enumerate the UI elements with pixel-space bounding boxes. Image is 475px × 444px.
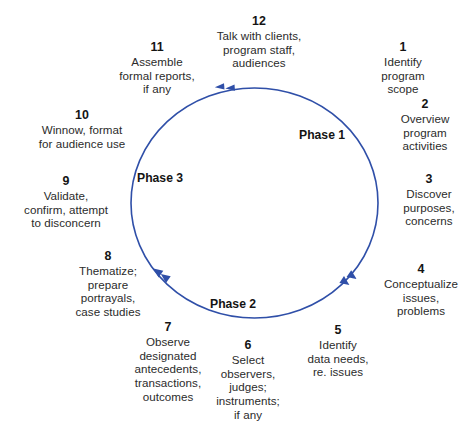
step-11: 11 Assemble formal reports, if any	[104, 40, 210, 96]
step-7-number: 7	[118, 320, 218, 335]
step-2: 2 Overview program activities	[382, 97, 468, 153]
step-10-text: Winnow, format for audience use	[24, 123, 140, 150]
step-12-text: Talk with clients, program staff, audien…	[201, 29, 317, 70]
step-2-number: 2	[382, 97, 468, 112]
step-3-number: 3	[387, 172, 471, 187]
step-5-number: 5	[290, 323, 386, 338]
step-3-text: Discover purposes, concerns	[387, 187, 471, 228]
step-8-text: Thematize; prepare portrayals, case stud…	[63, 264, 153, 319]
step-1-number: 1	[366, 40, 440, 55]
step-4: 4 Conceptualize issues, problems	[371, 262, 471, 318]
step-5: 5 Identify data needs, re. issues	[290, 323, 386, 379]
step-9: 9 Validate, confirm, attempt to disconce…	[10, 174, 122, 230]
step-8-number: 8	[63, 249, 153, 264]
step-11-text: Assemble formal reports, if any	[104, 55, 210, 96]
arrowhead-lower-left	[153, 269, 170, 283]
step-1-text: Identify program scope	[366, 55, 440, 96]
step-8: 8 Thematize; prepare portrayals, case st…	[63, 249, 153, 319]
step-10-number: 10	[24, 108, 140, 123]
cycle-diagram: 1 Identify program scope 2 Overview prog…	[0, 0, 475, 444]
step-4-number: 4	[371, 262, 471, 277]
step-12-number: 12	[201, 14, 317, 29]
cycle-ellipse	[131, 88, 378, 318]
step-10: 10 Winnow, format for audience use	[24, 108, 140, 150]
step-1: 1 Identify program scope	[366, 40, 440, 96]
step-4-text: Conceptualize issues, problems	[371, 277, 471, 318]
step-12: 12 Talk with clients, program staff, aud…	[201, 14, 317, 70]
step-11-number: 11	[104, 40, 210, 55]
step-2-text: Overview program activities	[382, 112, 468, 153]
step-9-text: Validate, confirm, attempt to disconcern	[10, 189, 122, 230]
arrowhead-top	[215, 83, 235, 91]
step-3: 3 Discover purposes, concerns	[387, 172, 471, 228]
step-9-number: 9	[10, 174, 122, 189]
phase-1-label: Phase 1	[299, 128, 345, 142]
phase-2-label: Phase 2	[210, 297, 256, 311]
step-7-text: Observe designated antecedents, transact…	[118, 335, 218, 403]
step-5-text: Identify data needs, re. issues	[290, 338, 386, 379]
step-7: 7 Observe designated antecedents, transa…	[118, 320, 218, 403]
phase-3-label: Phase 3	[137, 171, 183, 185]
